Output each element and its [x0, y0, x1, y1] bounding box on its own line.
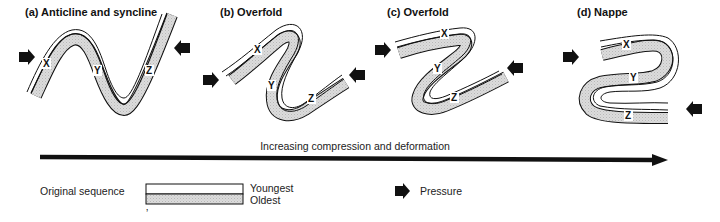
label-y-d: Y: [630, 72, 637, 83]
panel-c-overfold: (c) Overfold X Y Z: [375, 6, 523, 109]
legend-pressure-label: Pressure: [420, 185, 462, 197]
legend: Original sequence Youngest Oldest ʼ Pres…: [40, 182, 462, 219]
pressure-arrow-icon: [19, 49, 35, 65]
pressure-arrow-icon: [686, 101, 702, 117]
panel-c-title: (c) Overfold: [387, 6, 449, 18]
label-z-b: Z: [308, 93, 314, 104]
progression-line: [40, 157, 655, 160]
pressure-arrow-icon: [563, 49, 579, 65]
pressure-arrow-icon: [395, 183, 410, 199]
stray-mark: ʼ: [146, 207, 148, 219]
progression-arrow: Increasing compression and deformation: [40, 140, 668, 166]
legend-oldest-label: Oldest: [250, 194, 280, 206]
pressure-arrow-icon: [507, 60, 523, 76]
panel-a-title: (a) Anticline and syncline: [25, 6, 157, 18]
label-x-d: X: [623, 39, 630, 50]
youngest-swatch: [146, 184, 243, 194]
legend-youngest-label: Youngest: [250, 182, 293, 194]
panel-b-title: (b) Overfold: [220, 6, 282, 18]
label-y-b: Y: [268, 80, 275, 91]
panel-a-anticline-syncline: (a) Anticline and syncline X Y Z: [19, 6, 190, 110]
pressure-arrow-icon: [203, 72, 219, 88]
arrowhead-icon: [652, 154, 668, 166]
pressure-arrow-icon: [174, 40, 190, 56]
progression-caption: Increasing compression and deformation: [260, 140, 450, 152]
label-x-b: X: [254, 44, 261, 55]
pressure-arrow-icon: [349, 67, 365, 83]
label-x-c: X: [441, 28, 448, 39]
label-z-d: Z: [625, 110, 631, 121]
label-z-a: Z: [146, 65, 152, 76]
oldest-swatch: [146, 194, 243, 204]
label-z-c: Z: [451, 92, 457, 103]
pressure-arrow-icon: [375, 42, 391, 58]
panel-b-overfold: (b) Overfold X Y Z: [203, 6, 365, 115]
fold-diagram: (a) Anticline and syncline X Y Z (b) Ove…: [0, 0, 720, 222]
label-y-c: Y: [434, 63, 441, 74]
legend-sequence-label: Original sequence: [40, 185, 125, 197]
panel-d-title: (d) Nappe: [577, 6, 628, 18]
label-x-a: X: [43, 58, 50, 69]
label-y-a: Y: [94, 65, 101, 76]
panel-d-nappe: (d) Nappe X Y Z: [563, 6, 702, 121]
